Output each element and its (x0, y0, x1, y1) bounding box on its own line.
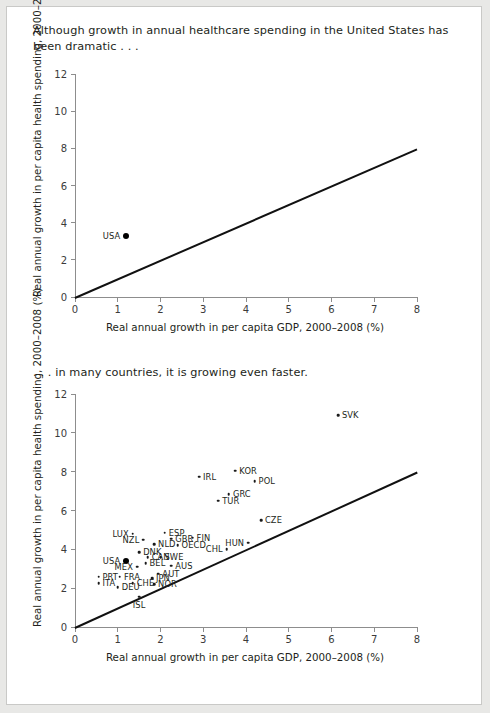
x-tick (331, 298, 332, 302)
y-tick-label: 12 (41, 389, 67, 400)
data-point-label: CZE (265, 515, 282, 525)
data-point[interactable] (142, 538, 145, 541)
x-tick-label: 8 (405, 304, 429, 315)
data-point[interactable] (97, 582, 100, 585)
y-tick (71, 148, 75, 149)
y-tick-label: 0 (41, 292, 67, 303)
x-tick (288, 298, 289, 302)
data-point[interactable] (260, 519, 263, 522)
y-tick-label: 4 (41, 544, 67, 555)
x-tick-label: 8 (405, 634, 429, 645)
scatter-chart-top: 024681012012345678Real annual growth in … (7, 65, 483, 355)
data-point[interactable] (138, 596, 141, 599)
x-tick-label: 4 (234, 304, 258, 315)
x-tick-label: 6 (320, 304, 344, 315)
x-tick-label: 7 (362, 304, 386, 315)
x-tick (374, 298, 375, 302)
y-axis-title-text: Real annual growth in per capita health … (31, 288, 43, 627)
x-tick (203, 298, 204, 302)
data-point[interactable] (247, 541, 250, 544)
x-tick (160, 298, 161, 302)
reference-line (75, 148, 418, 299)
data-point[interactable] (138, 551, 141, 554)
data-point[interactable] (153, 543, 156, 546)
y-tick-label: 6 (41, 180, 67, 191)
data-point-label: MEX (115, 562, 133, 572)
x-tick (203, 628, 204, 632)
data-point[interactable] (234, 469, 237, 472)
data-point[interactable] (170, 565, 173, 568)
x-tick (160, 628, 161, 632)
y-tick-label: 10 (41, 106, 67, 117)
x-tick-label: 3 (191, 634, 215, 645)
y-axis-line (75, 74, 76, 298)
data-point-label: IRL (203, 472, 216, 482)
figure-caption-top: Although growth in annual healthcare spe… (33, 23, 463, 55)
y-tick (71, 432, 75, 433)
data-point[interactable] (337, 414, 340, 417)
data-point-label: ITA (103, 578, 116, 588)
x-tick (117, 298, 118, 302)
data-point[interactable] (253, 480, 256, 483)
data-point-label: TUR (222, 496, 239, 506)
y-tick (71, 185, 75, 186)
data-point[interactable] (116, 586, 119, 589)
data-point[interactable] (153, 583, 156, 586)
y-axis-line (75, 394, 76, 628)
data-point-label: USA (103, 231, 120, 241)
y-tick (71, 259, 75, 260)
y-tick-label: 8 (41, 466, 67, 477)
y-tick-label: 6 (41, 505, 67, 516)
x-axis-line (75, 627, 418, 628)
data-point-label: SVK (342, 410, 359, 420)
x-tick (417, 628, 418, 632)
x-tick-label: 0 (63, 304, 87, 315)
data-point-label: BEL (150, 558, 166, 568)
data-point-label: OECD (182, 540, 206, 550)
data-point-label: POL (259, 476, 275, 486)
x-tick-label: 5 (277, 634, 301, 645)
y-axis-title-text: Real annual growth in per capita health … (31, 0, 43, 297)
data-point[interactable] (225, 548, 228, 551)
x-tick-label: 7 (362, 634, 386, 645)
y-tick-label: 0 (41, 622, 67, 633)
y-axis-title: Real annual growth in per capita health … (31, 74, 44, 297)
data-point[interactable] (176, 544, 179, 547)
scatter-chart-bottom: 024681012012345678Real annual growth in … (7, 385, 483, 685)
data-point[interactable] (136, 566, 139, 569)
data-point[interactable] (97, 575, 100, 578)
figure-page: Although growth in annual healthcare spe… (6, 6, 482, 705)
y-tick (71, 588, 75, 589)
y-tick-label: 10 (41, 427, 67, 438)
data-point-label: KOR (239, 466, 257, 476)
data-point[interactable] (123, 233, 129, 239)
y-tick (71, 394, 75, 395)
x-tick-label: 5 (277, 304, 301, 315)
x-axis-title: Real annual growth in per capita GDP, 20… (7, 651, 483, 663)
y-tick (71, 549, 75, 550)
data-point[interactable] (163, 532, 166, 535)
data-point[interactable] (119, 575, 122, 578)
x-tick-label: 2 (149, 304, 173, 315)
y-tick (71, 74, 75, 75)
x-tick-label: 3 (191, 304, 215, 315)
x-tick (417, 298, 418, 302)
data-point[interactable] (217, 499, 220, 502)
data-point-label: DEU (122, 582, 140, 592)
data-point-label: NOR (158, 579, 177, 589)
data-point-label: CHL (206, 544, 223, 554)
y-tick-label: 2 (41, 254, 67, 265)
x-tick-label: 6 (320, 634, 344, 645)
data-point[interactable] (198, 475, 201, 478)
x-tick (246, 628, 247, 632)
y-tick (71, 111, 75, 112)
x-tick-label: 1 (106, 634, 130, 645)
x-tick-label: 2 (149, 634, 173, 645)
y-tick-label: 2 (41, 583, 67, 594)
y-tick (71, 510, 75, 511)
y-tick-label: 12 (41, 69, 67, 80)
figure-caption-middle: . . . in many countries, it is growing e… (33, 365, 463, 381)
x-axis-title: Real annual growth in per capita GDP, 20… (7, 321, 483, 333)
data-point[interactable] (144, 562, 147, 565)
x-tick (331, 628, 332, 632)
